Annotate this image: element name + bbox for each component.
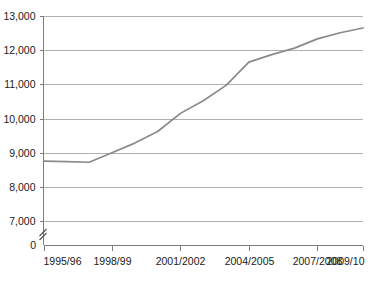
y-axis-tick-label: 10,000: [3, 113, 35, 125]
x-tick-marks-group: [45, 246, 364, 251]
y-axis-tick-label: 7,000: [9, 215, 35, 227]
y-axis-tick-label: 9,000: [9, 147, 35, 159]
x-axis-tick-labels-group: 1995/961998/992001/20022004/20052007/200…: [44, 255, 365, 267]
x-axis-tick-label: 1995/96: [44, 255, 82, 267]
y-tick-marks-group: [40, 17, 44, 222]
y-axis-tick-label: 12,000: [3, 44, 35, 56]
y-axis-tick-label: 11,000: [4, 78, 35, 90]
y-axis-tick-labels-group: 7,0008,0009,00010,00011,00012,00013,000: [3, 10, 35, 227]
x-axis-tick-label: 2004/2005: [225, 255, 275, 267]
y-axis-tick-label: 8,000: [9, 181, 35, 193]
chart-canvas: 7,0008,0009,00010,00011,00012,00013,000 …: [0, 0, 386, 283]
line-chart: 7,0008,0009,00010,00011,00012,00013,000 …: [0, 0, 386, 283]
x-axis-tick-label: 2009/10: [327, 255, 365, 267]
y-axis-origin-label: 0: [30, 239, 36, 251]
y-axis-tick-label: 13,000: [3, 10, 35, 22]
x-axis-tick-label: 1998/99: [94, 255, 132, 267]
gridlines-group: [44, 17, 364, 222]
data-series-line: [44, 28, 364, 162]
x-axis-tick-label: 2001/2002: [156, 255, 206, 267]
